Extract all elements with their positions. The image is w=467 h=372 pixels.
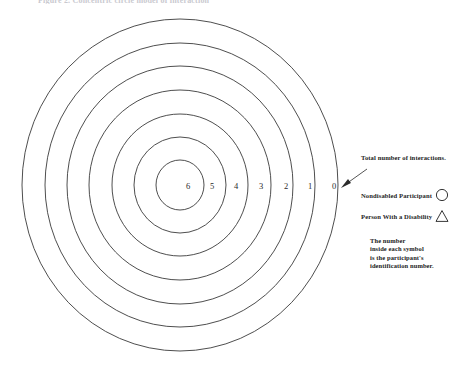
legend-note-line-1: The number <box>370 237 467 245</box>
legend-label-person-with-a-disability: Person With a Disability <box>361 213 432 220</box>
legend-label-nondisabled-participant: Nondisabled Participant <box>361 192 432 199</box>
triangle-symbol-icon <box>435 209 449 223</box>
legend-note: The number inside each symbol is the par… <box>370 237 467 271</box>
legend-caption: Total number of interactions. <box>361 154 467 162</box>
circle-symbol-icon <box>435 188 449 202</box>
figure-root: Figure 2. Concentric circle model of int… <box>0 0 467 372</box>
ring-label-1: 1 <box>308 181 312 191</box>
ring-label-2: 2 <box>284 181 288 191</box>
ring-1 <box>45 43 315 327</box>
legend-entry-person-with-a-disability: Person With a Disability <box>361 209 467 223</box>
legend-note-line-3: is the participant's <box>370 254 467 262</box>
legend: Total number of interactions. Nondisable… <box>361 154 467 271</box>
ring-label-3: 3 <box>259 181 263 191</box>
ring-label-5: 5 <box>210 181 214 191</box>
ring-6-inner <box>156 160 204 210</box>
legend-note-line-4: identification number. <box>370 262 467 270</box>
ring-3 <box>89 90 271 280</box>
legend-note-line-2: inside each symbol <box>370 245 467 253</box>
ring-label-4: 4 <box>234 181 239 191</box>
ring-label-6: 6 <box>186 181 190 191</box>
ring-label-0: 0 <box>332 181 336 191</box>
ring-4 <box>112 114 248 256</box>
legend-entry-nondisabled-participant: Nondisabled Participant <box>361 188 467 202</box>
ring-0-outer <box>22 19 338 351</box>
